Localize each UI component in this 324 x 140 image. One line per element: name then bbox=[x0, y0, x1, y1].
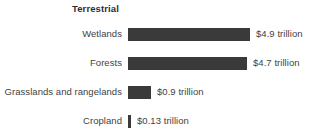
chart-title: Terrestrial bbox=[72, 2, 119, 15]
bar-wrap-forests: $4.7 trillion bbox=[128, 50, 324, 76]
value-label-cropland: $0.13 trillion bbox=[137, 115, 189, 127]
bar-wrap-wetlands: $4.9 trillion bbox=[128, 21, 324, 47]
category-label-wetlands: Wetlands bbox=[0, 28, 122, 40]
terrestrial-bar-chart: Terrestrial Wetlands $4.9 trillion Fores… bbox=[0, 0, 324, 140]
bar-grasslands-and-rangelands bbox=[128, 86, 151, 99]
bar-wetlands bbox=[128, 28, 250, 41]
bar-row-forests: Forests $4.7 trillion bbox=[0, 50, 324, 76]
bar-cropland bbox=[128, 115, 131, 128]
value-label-grasslands-and-rangelands: $0.9 trillion bbox=[157, 86, 204, 98]
category-label-cropland: Cropland bbox=[0, 115, 122, 127]
plot-area: Wetlands $4.9 trillion Forests $4.7 tril… bbox=[0, 16, 324, 140]
bar-wrap-grasslands-and-rangelands: $0.9 trillion bbox=[128, 79, 324, 105]
bar-row-wetlands: Wetlands $4.9 trillion bbox=[0, 21, 324, 47]
value-label-forests: $4.7 trillion bbox=[253, 57, 300, 69]
bar-forests bbox=[128, 57, 247, 70]
bar-row-cropland: Cropland $0.13 trillion bbox=[0, 108, 324, 134]
value-label-wetlands: $4.9 trillion bbox=[256, 28, 303, 40]
bar-wrap-cropland: $0.13 trillion bbox=[128, 108, 324, 134]
bar-row-grasslands-and-rangelands: Grasslands and rangelands $0.9 trillion bbox=[0, 79, 324, 105]
category-label-grasslands-and-rangelands: Grasslands and rangelands bbox=[0, 86, 122, 98]
category-label-forests: Forests bbox=[0, 57, 122, 69]
